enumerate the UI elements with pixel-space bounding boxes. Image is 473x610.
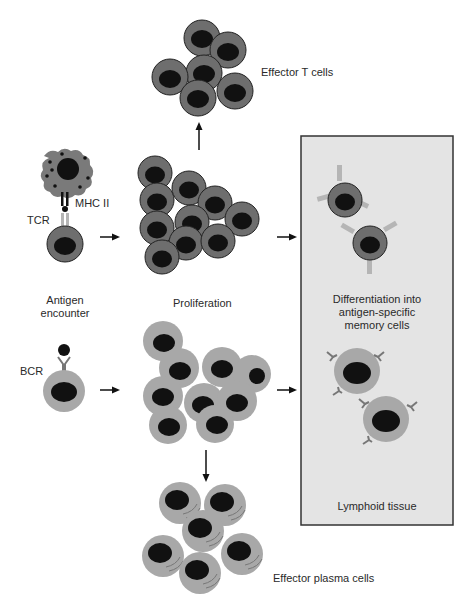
naive-t-cell xyxy=(47,226,83,262)
proliferation-label: Proliferation xyxy=(173,297,232,310)
effector-t-cell-cluster xyxy=(152,20,253,116)
arrow-right-icon xyxy=(100,387,120,394)
arrow-up-icon xyxy=(196,122,203,150)
tcr-receptor xyxy=(61,213,69,226)
arrow-right-icon xyxy=(100,234,120,241)
diff-line3: memory cells xyxy=(301,319,453,332)
effector-plasma-cells-label: Effector plasma cells xyxy=(273,572,374,585)
diff-line1: Differentiation into xyxy=(301,293,453,306)
lymphoid-tissue-label: Lymphoid tissue xyxy=(301,500,453,513)
mhc-ii-label: MHC II xyxy=(75,197,109,210)
tcr-label: TCR xyxy=(27,214,50,227)
antigen-encounter-label: Antigen encounter xyxy=(30,294,100,320)
effector-plasma-cell-cluster xyxy=(142,482,263,594)
t-cell-proliferation-cluster xyxy=(138,156,259,274)
bcr-label: BCR xyxy=(20,365,43,378)
effector-t-cells-label: Effector T cells xyxy=(261,66,333,79)
arrow-right-icon xyxy=(277,234,297,241)
diff-line2: antigen-specific xyxy=(301,306,453,319)
bcr-receptor xyxy=(58,344,70,373)
differentiation-label: Differentiation into antigen-specific me… xyxy=(301,293,453,332)
arrow-down-icon xyxy=(203,450,210,482)
arrow-right-icon xyxy=(277,387,297,394)
antigen-label-line2: encounter xyxy=(30,307,100,320)
antigen-presenting-cell xyxy=(41,149,94,199)
naive-b-cell xyxy=(43,370,85,412)
b-cell-proliferation-cluster xyxy=(143,321,271,444)
antigen-label-line1: Antigen xyxy=(30,294,100,307)
